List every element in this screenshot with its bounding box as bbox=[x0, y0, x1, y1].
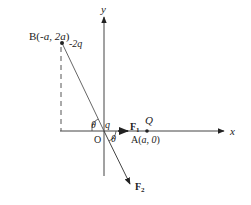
electrostatics-diagram: x y B(-a, 2a) -2q θ θ q O F1 Q A(a, 0) F… bbox=[0, 0, 251, 205]
point-A-dot bbox=[145, 129, 149, 133]
line-B-to-origin bbox=[62, 43, 104, 131]
point-A-label: A(a, 0) bbox=[131, 134, 160, 146]
point-A-charge: Q bbox=[145, 114, 153, 126]
point-B-label: B(-a, 2a) bbox=[29, 30, 70, 43]
x-axis-label: x bbox=[229, 125, 235, 137]
point-B-charge: -2q bbox=[69, 38, 82, 49]
force-F1-label: F1 bbox=[130, 121, 140, 134]
force-F2-label: F2 bbox=[135, 181, 145, 194]
origin-label: O bbox=[94, 134, 101, 145]
angle-label-lower: θ bbox=[111, 133, 116, 144]
force-F2-arrow bbox=[104, 131, 130, 184]
origin-charge: q bbox=[105, 119, 110, 130]
y-axis-label: y bbox=[100, 3, 106, 15]
angle-label-upper: θ bbox=[91, 119, 96, 130]
